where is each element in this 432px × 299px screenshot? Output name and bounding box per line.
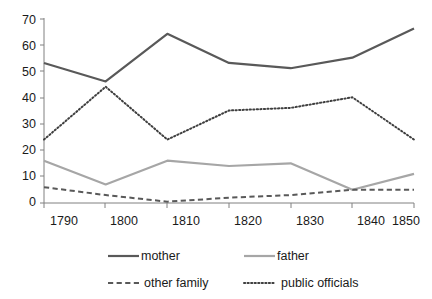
line-chart: 70 60 50 40 30 20 10 0 [0,0,432,299]
x-tick-label: 1800 [110,214,138,228]
legend-label-other-family: other family [144,276,209,290]
x-tick-label: 1850 [392,214,420,228]
y-tick-label: 0 [29,195,36,209]
series-line-mother [44,29,414,82]
chart-canvas: 70 60 50 40 30 20 10 0 [0,0,432,299]
x-tick-label: 1790 [50,214,78,228]
y-tick-label: 70 [22,13,36,27]
legend-label-mother: mother [141,249,180,263]
x-tick-label: 1810 [172,214,200,228]
series-line-father [44,161,414,190]
y-axis-tick-marks [40,19,44,203]
y-axis-tick-labels: 70 60 50 40 30 20 10 0 [22,13,36,209]
chart-legend: mother father other family public offici… [108,249,359,290]
x-tick-label: 1820 [234,214,262,228]
y-tick-label: 50 [22,65,36,79]
legend-label-father: father [277,249,309,263]
x-tick-label: 1840 [357,214,385,228]
y-tick-label: 60 [22,39,36,53]
x-axis-tick-marks [44,203,414,208]
legend-label-public-officials: public officials [281,276,359,290]
x-tick-label: 1830 [296,214,324,228]
x-axis-tick-labels: 1790 1800 1810 1820 1830 1840 1850 [50,214,420,228]
series-line-public-officials [44,87,414,140]
y-tick-label: 20 [22,143,36,157]
y-tick-label: 10 [22,169,36,183]
y-tick-label: 40 [22,91,36,105]
y-tick-label: 30 [22,117,36,131]
series-layer [44,29,414,202]
